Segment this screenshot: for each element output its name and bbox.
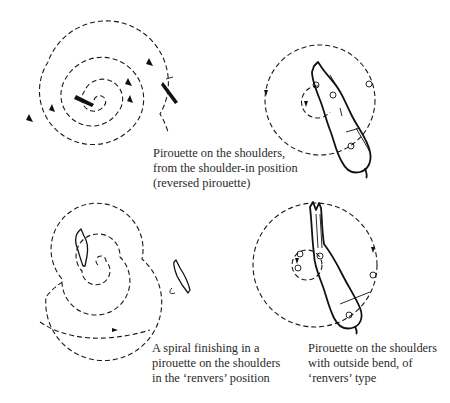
- caption-line: Pirouette on the shoulders,: [153, 146, 298, 161]
- horse-icon: [161, 82, 178, 104]
- caption-outside-bend-pirouette: Pirouette on the shoulders with outside …: [308, 341, 437, 386]
- pirouette-diagram-bottom-right: [253, 202, 377, 334]
- hoof-print-icon: [297, 251, 303, 257]
- spiral-diagram-bottom-left: [40, 203, 190, 360]
- arrow-icon: [371, 247, 375, 253]
- caption-line: (reversed pirouette): [153, 176, 298, 191]
- hoof-print-icon: [317, 253, 323, 259]
- hoof-print-icon: [330, 92, 336, 98]
- hoof-print-icon: [366, 81, 372, 87]
- arrow-icon: [127, 95, 133, 103]
- hoof-print-icon: [370, 272, 376, 278]
- caption-line: Pirouette on the shoulders: [308, 341, 437, 356]
- arrow-icon: [146, 58, 153, 66]
- arrow-icon: [295, 258, 299, 264]
- arrow-icon: [49, 104, 55, 112]
- hoof-print-icon: [295, 265, 301, 271]
- caption-line: with outside bend, of: [308, 356, 437, 371]
- spiral-diagram-top-left: [26, 21, 178, 145]
- caption-line: from the shoulder-in position: [153, 161, 298, 176]
- arrow-icon: [26, 114, 33, 122]
- arrow-icon: [264, 90, 268, 96]
- hoof-print-icon: [348, 143, 354, 149]
- horse-icon: [312, 62, 371, 173]
- horse-icon: [76, 229, 88, 266]
- horse-icon: [310, 202, 362, 329]
- horse-icon: [174, 260, 190, 293]
- caption-line: in the ‘renvers’ position: [152, 371, 280, 386]
- caption-line: pirouette on the shoulders: [152, 356, 280, 371]
- caption-line: A spiral finishing in a: [152, 341, 280, 356]
- caption-spiral-renvers: A spiral finishing in a pirouette on the…: [152, 341, 280, 386]
- caption-reversed-pirouette: Pirouette on the shoulders, from the sho…: [153, 146, 298, 191]
- caption-line: ‘renvers’ type: [308, 371, 437, 386]
- horse-icon: [74, 95, 94, 107]
- arrow-icon: [304, 101, 308, 107]
- arrow-icon: [112, 328, 118, 332]
- arrow-icon: [125, 78, 132, 86]
